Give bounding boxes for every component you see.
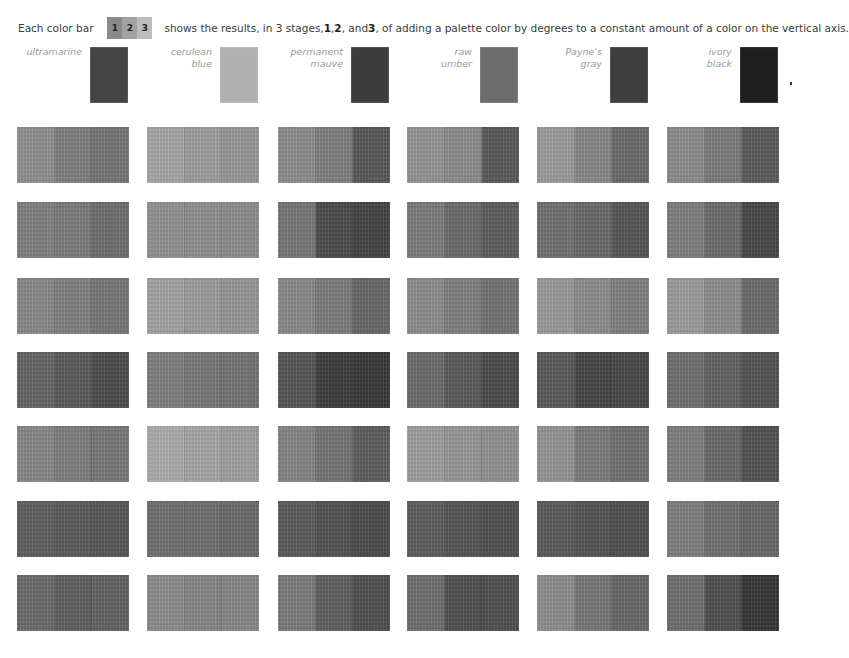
- color-bar-stage-3: [92, 278, 129, 334]
- color-bar-stage-2: [316, 426, 354, 482]
- color-bar-stage-3: [482, 278, 519, 334]
- sep: , and: [342, 22, 368, 34]
- stage-3-label: 3: [368, 22, 375, 34]
- speck-mark: [790, 82, 792, 85]
- color-bar-stage-3: [742, 575, 779, 631]
- stage-key-3: 3: [137, 17, 152, 39]
- color-bar-stage-1: [17, 352, 55, 408]
- color-bar-stage-3: [742, 202, 779, 258]
- color-bar-stage-1: [407, 426, 445, 482]
- color-bar: [278, 501, 390, 557]
- color-bar: [407, 278, 519, 334]
- color-bar-stage-2: [445, 501, 483, 557]
- color-bar-stage-2: [55, 352, 93, 408]
- color-bar-stage-2: [55, 202, 93, 258]
- color-bar-stage-2: [55, 575, 93, 631]
- color-bar: [17, 426, 129, 482]
- color-bar-stage-2: [316, 127, 354, 183]
- color-bar-stage-2: [575, 501, 613, 557]
- palette-label: Payne'sgray: [529, 46, 602, 70]
- color-bar-stage-2: [445, 352, 483, 408]
- color-bar: [278, 278, 390, 334]
- color-bar-stage-3: [353, 202, 390, 258]
- color-bar-stage-3: [222, 127, 259, 183]
- color-bar-stage-2: [705, 426, 743, 482]
- color-bar: [667, 501, 779, 557]
- color-bar: [407, 202, 519, 258]
- color-bar-stage-3: [482, 127, 519, 183]
- color-bar: [147, 278, 259, 334]
- color-bar-stage-3: [92, 501, 129, 557]
- color-bar-stage-1: [17, 575, 55, 631]
- color-bar-stage-3: [612, 352, 649, 408]
- color-bar-stage-1: [17, 278, 55, 334]
- color-bar-stage-2: [445, 202, 483, 258]
- color-bar-stage-3: [222, 426, 259, 482]
- color-bar-stage-2: [705, 501, 743, 557]
- color-bar-stage-2: [316, 202, 354, 258]
- color-bar-stage-1: [407, 278, 445, 334]
- color-bar: [147, 501, 259, 557]
- color-bar-stage-1: [667, 127, 705, 183]
- stage-2-label: 2: [334, 22, 341, 34]
- color-bar: [667, 352, 779, 408]
- color-bar-stage-1: [407, 202, 445, 258]
- palette-swatch: [351, 47, 389, 103]
- color-bar: [407, 127, 519, 183]
- color-bar-stage-3: [612, 202, 649, 258]
- color-bar-stage-1: [147, 501, 185, 557]
- color-bar-stage-1: [537, 127, 575, 183]
- color-bar-stage-1: [537, 575, 575, 631]
- color-bar-stage-3: [612, 426, 649, 482]
- color-bar-stage-2: [316, 278, 354, 334]
- color-bar-stage-1: [537, 501, 575, 557]
- color-bar-stage-1: [667, 352, 705, 408]
- color-bar-stage-2: [185, 127, 223, 183]
- color-bar-stage-3: [222, 352, 259, 408]
- color-bar-stage-3: [92, 575, 129, 631]
- color-bar-stage-1: [147, 426, 185, 482]
- color-bar-stage-2: [575, 575, 613, 631]
- color-bar-stage-2: [575, 426, 613, 482]
- color-bar-stage-2: [55, 278, 93, 334]
- palette-swatch: [740, 47, 778, 103]
- color-bar-stage-3: [482, 501, 519, 557]
- color-bar: [667, 278, 779, 334]
- color-bar-stage-3: [482, 575, 519, 631]
- color-bar-stage-1: [278, 127, 316, 183]
- color-bar-stage-2: [445, 426, 483, 482]
- color-bar-stage-3: [353, 352, 390, 408]
- color-bar-stage-2: [316, 501, 354, 557]
- color-bar: [147, 426, 259, 482]
- color-bar-stage-1: [667, 426, 705, 482]
- palette-label: permanentmauve: [270, 46, 343, 70]
- stage-1-label: 1: [324, 22, 331, 34]
- color-bar-stage-1: [147, 127, 185, 183]
- color-bar-stage-2: [705, 352, 743, 408]
- color-bar: [278, 575, 390, 631]
- color-bar-stage-2: [55, 426, 93, 482]
- palette-swatch: [90, 47, 128, 103]
- color-bar-stage-1: [278, 202, 316, 258]
- color-bar-stage-1: [537, 278, 575, 334]
- color-bar: [17, 352, 129, 408]
- color-bar: [17, 202, 129, 258]
- color-bar-stage-3: [482, 426, 519, 482]
- palette-swatch: [610, 47, 648, 103]
- palette-label: ivoryblack: [659, 46, 732, 70]
- color-bar-stage-2: [185, 278, 223, 334]
- stage-key-1: 1: [107, 17, 122, 39]
- color-bar: [667, 127, 779, 183]
- color-bar: [278, 127, 390, 183]
- color-bar-stage-3: [742, 278, 779, 334]
- color-bar-stage-3: [92, 426, 129, 482]
- color-bar-stage-3: [222, 575, 259, 631]
- color-bar: [537, 127, 649, 183]
- color-bar-stage-3: [353, 501, 390, 557]
- color-bar-stage-3: [92, 127, 129, 183]
- palette-swatch: [480, 47, 518, 103]
- color-bar-stage-2: [575, 202, 613, 258]
- palette-label: ceruleanblue: [139, 46, 212, 70]
- intro-prefix: Each color bar: [18, 22, 93, 34]
- color-bar-stage-1: [147, 352, 185, 408]
